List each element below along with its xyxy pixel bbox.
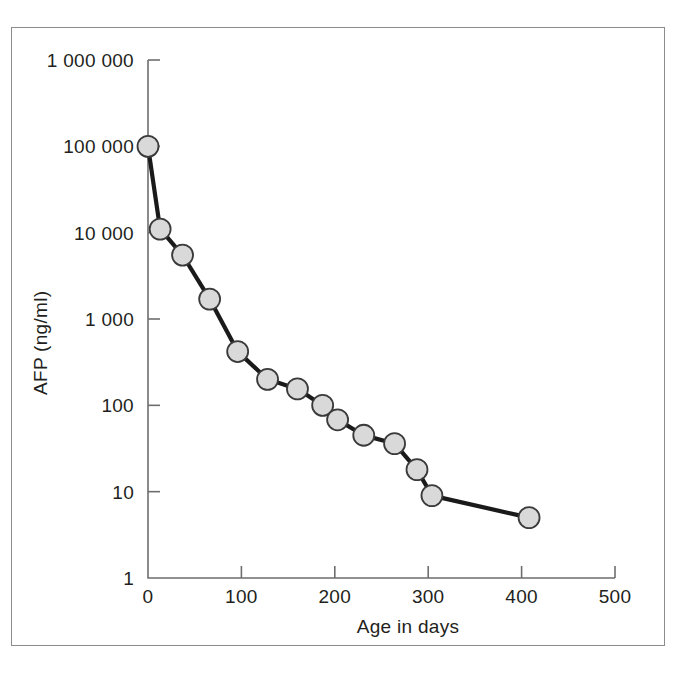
y-tick-label: 1 000 000 xyxy=(47,50,134,71)
y-tick-label: 1 xyxy=(123,568,134,589)
x-tick-label: 0 xyxy=(143,586,154,607)
y-tick-label: 10 xyxy=(112,482,134,503)
data-line-segment xyxy=(400,450,411,462)
x-tick-labels: 0100200300400500 xyxy=(143,586,632,607)
x-tick-label: 500 xyxy=(599,586,632,607)
afp-vs-age-chart: 1101001 00010 000100 0001 000 000 010020… xyxy=(0,0,695,675)
data-point-marker xyxy=(199,289,220,310)
y-tick-label: 100 000 xyxy=(63,136,134,157)
data-point-marker xyxy=(327,409,348,430)
data-line-segment xyxy=(187,263,205,292)
y-tick-labels: 1101001 00010 000100 0001 000 000 xyxy=(47,50,134,589)
data-line-segment xyxy=(244,358,261,374)
x-tick-label: 200 xyxy=(318,586,351,607)
x-tick-label: 400 xyxy=(505,586,538,607)
y-tick-label: 1 000 xyxy=(85,309,134,330)
x-tick-label: 300 xyxy=(412,586,445,607)
data-line xyxy=(149,155,520,515)
data-point-marker xyxy=(150,219,171,240)
data-point-marker xyxy=(172,245,193,266)
y-tick-label: 10 000 xyxy=(74,223,134,244)
y-axis-title: AFP (ng/ml) xyxy=(30,291,51,395)
data-point-marker xyxy=(406,459,427,480)
data-line-segment xyxy=(149,155,159,220)
data-point-marker xyxy=(227,341,248,362)
data-point-marker xyxy=(353,425,374,446)
data-line-segment xyxy=(441,498,521,516)
data-point-marker xyxy=(138,136,159,157)
data-line-segment xyxy=(214,307,234,344)
x-axis-title: Age in days xyxy=(357,616,460,637)
figure-container: 1101001 00010 000100 0001 000 000 010020… xyxy=(0,0,695,675)
data-markers xyxy=(138,136,540,528)
data-point-marker xyxy=(421,485,442,506)
x-tick-label: 100 xyxy=(225,586,258,607)
data-point-marker xyxy=(384,433,405,454)
data-point-marker xyxy=(287,378,308,399)
data-point-marker xyxy=(257,369,278,390)
data-line-segment xyxy=(166,236,177,248)
y-tick-label: 100 xyxy=(101,395,134,416)
data-point-marker xyxy=(519,507,540,528)
